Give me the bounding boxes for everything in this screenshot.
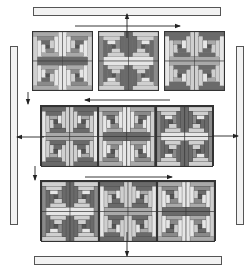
log-cabin-pattern bbox=[157, 107, 212, 166]
block-r3-c2 bbox=[99, 181, 157, 242]
right-border-strip bbox=[236, 46, 244, 225]
row-2 bbox=[40, 105, 214, 166]
block-r2-c2 bbox=[98, 106, 155, 167]
log-cabin-pattern bbox=[100, 182, 156, 241]
log-cabin-pattern bbox=[99, 32, 158, 90]
log-cabin-pattern bbox=[33, 32, 92, 90]
block-r1-c1 bbox=[32, 31, 93, 91]
log-cabin-pattern bbox=[42, 107, 97, 166]
row-3 bbox=[40, 180, 216, 241]
bottom-border-strip bbox=[34, 256, 222, 265]
block-r1-c2 bbox=[98, 31, 159, 91]
log-cabin-pattern bbox=[158, 182, 214, 241]
log-cabin-pattern bbox=[42, 182, 98, 241]
top-border-strip bbox=[33, 7, 221, 16]
log-cabin-pattern bbox=[165, 32, 224, 90]
log-cabin-pattern bbox=[99, 107, 154, 166]
block-r2-c3 bbox=[156, 106, 213, 167]
block-r3-c3 bbox=[157, 181, 215, 242]
block-r3-c1 bbox=[41, 181, 99, 242]
block-r1-c3 bbox=[164, 31, 225, 91]
block-r2-c1 bbox=[41, 106, 98, 167]
row-1 bbox=[32, 31, 225, 91]
left-border-strip bbox=[10, 46, 18, 225]
